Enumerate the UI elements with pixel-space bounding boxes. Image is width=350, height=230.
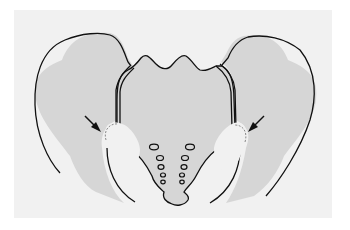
sacrum <box>117 56 235 206</box>
pelvis-diagram <box>0 0 350 230</box>
